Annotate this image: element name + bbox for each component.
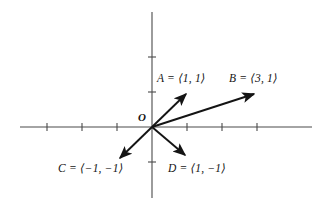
origin-label: O: [138, 111, 146, 123]
vector-b-arrow: [152, 94, 254, 127]
coordinate-plane-svg: [0, 0, 327, 212]
vector-d-label: D = ⟨1, −1⟩: [168, 161, 226, 175]
vector-d-arrow: [152, 127, 185, 155]
vector-c-label: C = ⟨−1, −1⟩: [58, 161, 123, 175]
vector-b-label: B = ⟨3, 1⟩: [229, 71, 278, 85]
vector-c-arrow: [120, 127, 152, 158]
vector-diagram: O A = ⟨1, 1⟩ B = ⟨3, 1⟩ C = ⟨−1, −1⟩ D =…: [0, 0, 327, 212]
vector-a-label: A = ⟨1, 1⟩: [157, 71, 206, 85]
